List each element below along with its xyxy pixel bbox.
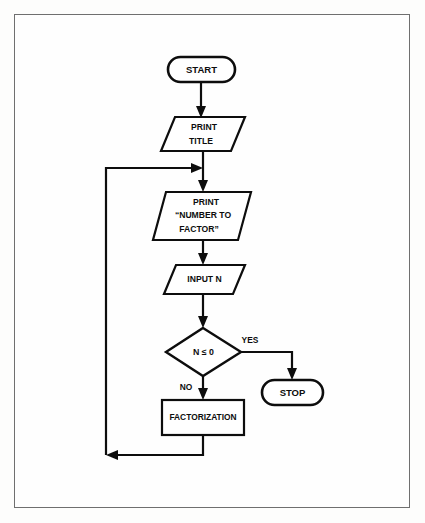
- node-factorization-label: FACTORIZATION: [169, 412, 236, 422]
- arrowhead-icon: [198, 388, 208, 400]
- node-print-prompt-label-line2: “NUMBER TO: [175, 210, 231, 220]
- connector-decision-yes-to-stop: [241, 352, 297, 380]
- node-decision[interactable]: N ≤ 0: [166, 328, 241, 376]
- node-print-title-label-line2: TITLE: [189, 136, 213, 146]
- arrowhead-icon: [198, 180, 208, 192]
- connector-print-prompt-to-input-n: [198, 240, 208, 265]
- connector-start-to-print-title: [196, 82, 206, 118]
- node-print-title-label-line1: PRINT: [191, 122, 218, 132]
- node-start-label: START: [186, 64, 217, 75]
- arrowhead-icon: [287, 368, 297, 380]
- edge-label-yes: YES: [242, 335, 259, 345]
- arrowhead-icon: [198, 316, 208, 328]
- node-input-n[interactable]: INPUT N: [164, 265, 245, 294]
- edge-label-no: NO: [180, 382, 193, 392]
- arrowhead-icon: [191, 163, 203, 173]
- node-print-prompt[interactable]: PRINT “NUMBER TO FACTOR”: [153, 192, 251, 240]
- connector-decision-no-to-factorization: [198, 376, 208, 400]
- node-start[interactable]: START: [168, 57, 235, 82]
- flowchart-diagram: START PRINT TITLE PRINT “NUMBER TO FACTO…: [0, 0, 425, 523]
- node-stop[interactable]: STOP: [262, 380, 323, 405]
- connector-input-n-to-decision: [198, 294, 208, 328]
- node-print-prompt-label-line3: FACTOR”: [179, 224, 218, 234]
- connector-print-title-to-print-prompt: [198, 151, 208, 192]
- node-print-prompt-label-line1: PRINT: [193, 197, 220, 207]
- node-input-n-label: INPUT N: [187, 274, 221, 284]
- node-factorization[interactable]: FACTORIZATION: [162, 400, 244, 435]
- arrowhead-icon: [198, 253, 208, 265]
- arrowhead-icon: [106, 450, 118, 460]
- node-decision-label: N ≤ 0: [193, 347, 214, 357]
- node-print-title[interactable]: PRINT TITLE: [161, 117, 245, 151]
- screenshot-canvas: START PRINT TITLE PRINT “NUMBER TO FACTO…: [0, 0, 425, 523]
- node-stop-label: STOP: [280, 387, 306, 398]
